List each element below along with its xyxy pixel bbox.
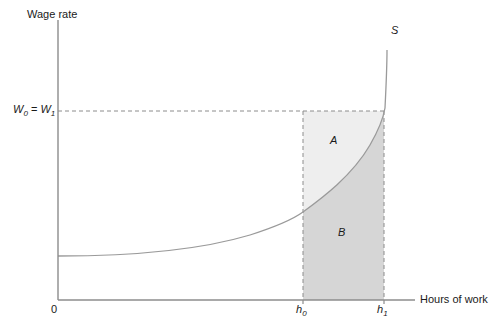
wage-level-label: W0 = W1 — [13, 103, 55, 118]
supply-curve-label: S — [391, 24, 398, 36]
w1-symbol: W — [40, 103, 50, 115]
h0-subscript: 0 — [302, 309, 306, 318]
y-axis-title: Wage rate — [27, 8, 77, 20]
labor-supply-figure: Wage rate Hours of work 0 h0 h1 W0 = W1 … — [0, 0, 497, 329]
x-axis-title: Hours of work — [420, 293, 488, 305]
equals-sign: = — [28, 103, 41, 115]
w1-subscript: 1 — [51, 109, 55, 118]
h1-subscript: 1 — [383, 309, 387, 318]
region-b-label: B — [338, 226, 345, 238]
region-a-label: A — [330, 134, 337, 146]
plot-canvas — [0, 0, 497, 329]
origin-label: 0 — [51, 303, 57, 315]
h0-tick-label: h0 — [296, 303, 307, 318]
w0-symbol: W — [13, 103, 23, 115]
h1-tick-label: h1 — [377, 303, 388, 318]
